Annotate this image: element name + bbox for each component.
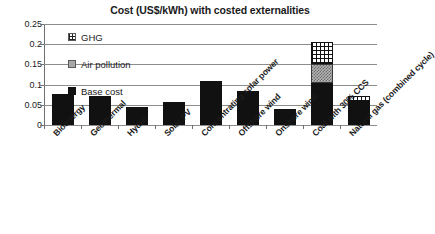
- legend-item-label: GHG: [81, 32, 103, 43]
- x-axis-tick-mark: [155, 125, 156, 129]
- y-axis-tick-label: 0.05: [4, 100, 42, 110]
- chart-title: Cost (US$/kWh) with costed externalities: [40, 4, 380, 16]
- ghg-checkered-swatch: [68, 33, 76, 41]
- y-axis: 00.050.10.150.20.25: [0, 0, 42, 234]
- gridline: [44, 24, 377, 25]
- legend-item-label: Base cost: [81, 86, 123, 97]
- x-axis-tick-mark: [340, 125, 341, 129]
- y-axis-tick-label: 0: [4, 120, 42, 130]
- bar-segment-air-pollution: [311, 64, 333, 82]
- x-axis-tick-mark: [81, 125, 82, 129]
- bar-segment-ghg: [311, 42, 333, 64]
- x-axis-tick-mark: [44, 125, 45, 129]
- legend-item[interactable]: GHG: [68, 27, 188, 47]
- x-axis-tick-mark: [266, 125, 267, 129]
- base-cost-black-swatch: [68, 87, 76, 95]
- chart-legend: GHGAir pollutionBase cost: [68, 27, 188, 108]
- x-axis-tick-mark: [229, 125, 230, 129]
- x-axis-tick-mark: [118, 125, 119, 129]
- legend-item[interactable]: Air pollution: [68, 54, 188, 74]
- y-axis-tick-label: 0.15: [4, 59, 42, 69]
- y-axis-tick-label: 0.2: [4, 39, 42, 49]
- legend-item-label: Air pollution: [81, 59, 131, 70]
- y-axis-tick-label: 0.1: [4, 80, 42, 90]
- y-axis-tick-label: 0.25: [4, 19, 42, 29]
- x-axis-tick-mark: [303, 125, 304, 129]
- legend-item[interactable]: Base cost: [68, 81, 188, 101]
- x-axis-tick-mark: [192, 125, 193, 129]
- air-pollution-gray-swatch: [68, 60, 76, 68]
